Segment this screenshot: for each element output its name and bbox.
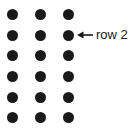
dot-r2-c2	[35, 30, 46, 41]
row-2-annotation-label: row 2	[96, 28, 128, 41]
dot-r3-c1	[7, 50, 18, 61]
dot-r4-c2	[35, 71, 46, 82]
dot-r4-c1	[7, 71, 18, 82]
dot-r5-c1	[7, 92, 18, 103]
dot-r2-c1	[7, 30, 18, 41]
dot-r1-c2	[35, 9, 46, 20]
dot-r3-c3	[63, 50, 74, 61]
dot-r6-c3	[63, 112, 74, 123]
dot-r1-c1	[7, 9, 18, 20]
dot-r3-c2	[35, 50, 46, 61]
dot-r6-c1	[7, 112, 18, 123]
dot-array-figure: row 2	[0, 0, 136, 132]
dot-r4-c3	[63, 71, 74, 82]
dot-r6-c2	[35, 112, 46, 123]
dot-r5-c2	[35, 92, 46, 103]
dot-r5-c3	[63, 92, 74, 103]
dot-r1-c3	[63, 9, 74, 20]
dot-r2-c3	[63, 30, 74, 41]
